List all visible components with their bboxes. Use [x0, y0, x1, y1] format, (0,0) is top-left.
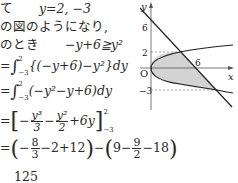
term: −18 [142, 140, 168, 155]
term: −2+12 [41, 140, 86, 155]
integral-sign: ∫ [10, 56, 19, 76]
integral-limits: 2−3 [18, 55, 28, 77]
fraction-y2-over-2: y²2 [56, 110, 69, 133]
antiderivative-line: =[−y³3−y²2+6y]2−3 [0, 108, 114, 134]
denominator: 2 [58, 122, 65, 133]
integrand: {(−y+6)−y²}dy [29, 58, 128, 73]
evaluation-limits: 2−3 [103, 108, 113, 134]
result-numerator: 125 [14, 170, 38, 183]
y-axis-label: y [140, 1, 147, 12]
equals-sign: = [0, 140, 10, 155]
condition-text: のとき [0, 37, 39, 52]
inequality: −y+6≧y² [65, 37, 123, 52]
minus-sign: − [19, 113, 29, 128]
term: 9− [113, 140, 131, 155]
integrand: (−y²−y+6)dy [29, 83, 112, 98]
equals-sign: = [0, 58, 10, 73]
lower-limit: −3 [103, 126, 113, 134]
origin-label: O [140, 68, 148, 79]
minus-sign: − [44, 113, 54, 128]
y-axis-arrow [149, 2, 153, 8]
denominator: 3 [33, 122, 40, 133]
right-bracket: ] [95, 108, 104, 133]
integral-line-1: =∫2−3{(−y+6)−y²}dy [0, 55, 128, 77]
evaluation-line: =(−83−2+12)−(9−92−18) [0, 137, 177, 160]
lower-limit: −3 [18, 69, 28, 77]
y-tick-minus3: −3 [140, 86, 153, 96]
integral-line-2: =∫2−3(−y²−y+6)dy [0, 80, 112, 102]
term-6y: +6y [69, 113, 95, 128]
denominator: 3 [32, 149, 39, 160]
minus-sign: − [19, 140, 29, 155]
y-tick-2: 2 [142, 48, 148, 58]
x-axis-arrow [228, 66, 234, 70]
x-axis-label: x [228, 71, 234, 82]
description-text: の図のようになり, [0, 19, 108, 34]
fraction-9-over-2: 92 [132, 137, 141, 160]
text-line-2: の図のようになり, [0, 20, 108, 34]
right-paren: ) [85, 136, 94, 161]
denominator: 2 [133, 149, 140, 160]
lower-limit: −3 [18, 94, 28, 102]
line-fragment: て [0, 1, 13, 16]
left-paren: ( [10, 136, 19, 161]
fraction-y3-over-3: y³3 [31, 110, 44, 133]
integral-sign: ∫ [10, 81, 19, 101]
line-curve [140, 8, 232, 107]
minus-sign: − [94, 140, 104, 155]
right-paren: ) [169, 136, 178, 161]
upper-limit: 2 [18, 80, 28, 88]
equals-sign: = [0, 113, 10, 128]
upper-limit: 2 [18, 55, 28, 63]
x-tick-6: 6 [195, 58, 201, 68]
numerator: y² [56, 110, 69, 122]
fraction-8-over-3: 83 [31, 137, 40, 160]
integral-limits: 2−3 [18, 80, 28, 102]
left-paren: ( [104, 136, 113, 161]
result-value: 125 [14, 169, 38, 183]
upper-limit: 2 [103, 108, 113, 116]
graph: y x O 6 2 −3 6 [140, 0, 238, 110]
text-line-3: のとき −y+6≧y² [0, 38, 123, 52]
y-tick-6: 6 [142, 23, 148, 33]
left-bracket: [ [10, 108, 19, 133]
numerator: y³ [31, 110, 44, 122]
text-line-1: て y=2, −3 [0, 2, 91, 16]
solution-values: y=2, −3 [39, 1, 91, 16]
equals-sign: = [0, 83, 10, 98]
